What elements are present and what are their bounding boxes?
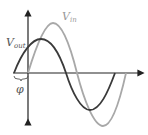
vin-label: Vin: [62, 10, 77, 24]
phase-label: φ: [16, 83, 24, 96]
vout-curve: [14, 39, 115, 110]
vout-label: Vout: [6, 36, 26, 50]
phase-brace: [14, 76, 28, 81]
phase-diagram: Vout Vin φ: [0, 0, 148, 135]
